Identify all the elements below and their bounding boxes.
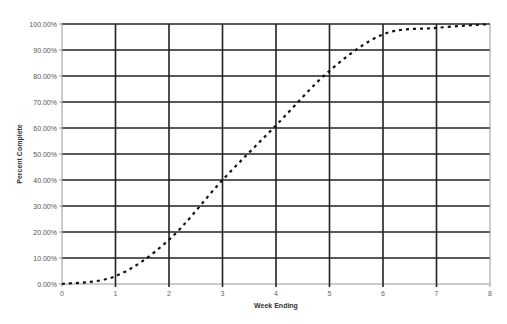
x-tick-label: 4 bbox=[274, 290, 278, 297]
grid-lines bbox=[59, 24, 490, 287]
y-tick-label: 0.00% bbox=[37, 281, 57, 288]
x-tick-label: 2 bbox=[167, 290, 171, 297]
y-tick-label: 50.00% bbox=[33, 151, 57, 158]
x-tick-label: 6 bbox=[381, 290, 385, 297]
x-axis-label: Week Ending bbox=[254, 302, 298, 310]
x-tick-label: 0 bbox=[60, 290, 64, 297]
x-tick-label: 3 bbox=[221, 290, 225, 297]
y-tick-label: 30.00% bbox=[33, 203, 57, 210]
x-axis-ticks: 012345678 bbox=[60, 290, 492, 297]
s-curve-chart: 0.00%10.00%20.00%30.00%40.00%50.00%60.00… bbox=[0, 0, 507, 324]
x-tick-label: 8 bbox=[488, 290, 492, 297]
y-tick-label: 70.00% bbox=[33, 99, 57, 106]
y-tick-label: 90.00% bbox=[33, 47, 57, 54]
y-tick-label: 20.00% bbox=[33, 229, 57, 236]
x-tick-label: 5 bbox=[328, 290, 332, 297]
y-tick-label: 10.00% bbox=[33, 255, 57, 262]
y-tick-label: 80.00% bbox=[33, 73, 57, 80]
x-tick-label: 1 bbox=[114, 290, 118, 297]
y-tick-label: 60.00% bbox=[33, 125, 57, 132]
y-axis-label: Percent Complete bbox=[16, 124, 24, 184]
y-tick-label: 40.00% bbox=[33, 177, 57, 184]
x-tick-label: 7 bbox=[435, 290, 439, 297]
y-axis-ticks: 0.00%10.00%20.00%30.00%40.00%50.00%60.00… bbox=[29, 21, 57, 288]
y-tick-label: 100.00% bbox=[29, 21, 57, 28]
